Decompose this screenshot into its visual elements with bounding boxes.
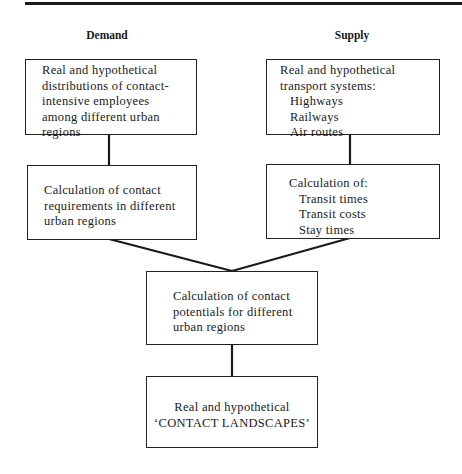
box-line: distributions of contact- <box>42 79 169 95</box>
contact-landscapes-box: Real and hypothetical ‘CONTACT LANDSCAPE… <box>146 376 318 448</box>
transport-item-air-routes: Air routes <box>280 125 395 141</box>
box-line: transport systems: <box>280 79 395 95</box>
box-line: Real and hypothetical <box>147 400 317 416</box>
box-line: Real and hypothetical <box>42 63 169 79</box>
box-line: Real and hypothetical <box>280 63 395 79</box>
box-line: regions <box>42 125 169 141</box>
connector-supply-diagonal <box>232 238 350 271</box>
calc-item-stay-times: Stay times <box>289 223 368 239</box>
box-line: Calculation of contact <box>173 289 292 305</box>
box-line: among different urban <box>42 110 169 126</box>
box-line: Calculation of: <box>289 176 368 192</box>
box-line: urban regions <box>173 320 292 336</box>
demand-distribution-box: Real and hypothetical distributions of c… <box>25 59 197 135</box>
transport-item-railways: Railways <box>280 110 395 126</box>
supply-calculation-box: Calculation of: Transit times Transit co… <box>266 164 440 239</box>
box-line: Calculation of contact <box>44 183 176 199</box>
calc-item-transit-costs: Transit costs <box>289 207 368 223</box>
connector-demand-diagonal <box>109 239 232 271</box>
demand-requirements-box: Calculation of contact requirements in d… <box>27 165 197 240</box>
box-line: urban regions <box>44 214 176 230</box>
supply-transport-box: Real and hypothetical transport systems:… <box>266 59 440 135</box>
box-line: intensive employees <box>42 94 169 110</box>
box-line: ‘CONTACT LANDSCAPES’ <box>147 416 317 432</box>
contact-potentials-box: Calculation of contact potentials for di… <box>146 271 318 345</box>
calc-item-transit-times: Transit times <box>289 192 368 208</box>
box-line: requirements in different <box>44 199 176 215</box>
transport-item-highways: Highways <box>280 94 395 110</box>
box-line: potentials for different <box>173 305 292 321</box>
